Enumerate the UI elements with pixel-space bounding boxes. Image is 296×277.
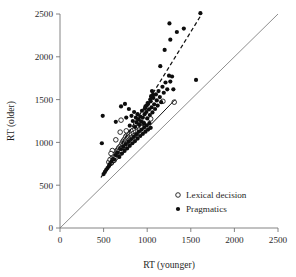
data-point-filled: [153, 107, 157, 111]
data-point-filled: [198, 11, 202, 15]
data-point-filled: [159, 100, 163, 104]
y-tick-label: 1500: [35, 95, 54, 105]
data-point-filled: [132, 110, 136, 114]
data-point-filled: [175, 30, 179, 34]
legend-label-pragmatics: Pragmatics: [186, 204, 227, 214]
data-point-filled: [119, 104, 123, 108]
data-point-filled: [100, 141, 104, 145]
x-tick-label: 2000: [225, 235, 244, 245]
x-tick-label: 0: [58, 235, 63, 245]
y-tick-label: 2500: [35, 9, 54, 19]
data-point-filled: [114, 120, 118, 124]
x-tick-label: 1500: [182, 235, 201, 245]
y-axis-title: RT (older): [5, 101, 17, 141]
data-point-filled: [101, 114, 105, 118]
y-tick-label: 0: [48, 223, 53, 233]
data-point-filled: [168, 80, 172, 84]
data-point-filled: [182, 26, 186, 30]
x-tick-label: 1000: [138, 235, 157, 245]
scatter-plot-figure: 05001000150020002500 0500100015002000250…: [0, 0, 296, 277]
data-point-open: [124, 129, 129, 134]
data-point-filled: [162, 91, 166, 95]
data-point-filled: [168, 38, 172, 42]
legend-label-lexical-decision: Lexical decision: [186, 190, 247, 200]
data-point-filled: [156, 103, 160, 107]
plot-canvas: 05001000150020002500 0500100015002000250…: [0, 0, 296, 277]
data-point-filled: [156, 89, 160, 93]
data-point-open: [119, 118, 124, 123]
y-tick-label: 500: [39, 181, 53, 191]
data-point-filled: [129, 114, 133, 118]
data-point-filled: [194, 78, 198, 82]
data-point-filled: [128, 124, 132, 128]
data-point-filled: [158, 64, 162, 68]
legend-marker-open-circle: [176, 193, 181, 198]
data-point-filled: [158, 95, 162, 99]
data-point-open: [109, 151, 114, 156]
data-point-open: [114, 138, 119, 143]
data-point-filled: [155, 98, 159, 102]
legend-marker-filled-circle: [176, 207, 180, 211]
data-point-filled: [160, 85, 164, 89]
data-point-filled: [163, 48, 167, 52]
data-point-filled: [165, 87, 169, 91]
y-tick-label: 2000: [35, 52, 54, 62]
data-point-filled: [124, 115, 128, 119]
data-point-filled: [171, 87, 175, 91]
y-tick-label: 1000: [35, 138, 54, 148]
data-point-filled: [167, 21, 171, 25]
x-tick-label: 2500: [269, 235, 288, 245]
data-point-open: [118, 130, 123, 135]
x-axis-title: RT (younger): [143, 259, 195, 271]
data-point-filled: [145, 116, 149, 120]
x-tick-label: 500: [97, 235, 111, 245]
data-point-filled: [131, 119, 135, 123]
data-point-filled: [170, 74, 174, 78]
data-point-filled: [127, 107, 131, 111]
data-point-filled: [123, 102, 127, 106]
data-point-filled: [163, 80, 167, 84]
data-point-filled: [150, 110, 154, 114]
